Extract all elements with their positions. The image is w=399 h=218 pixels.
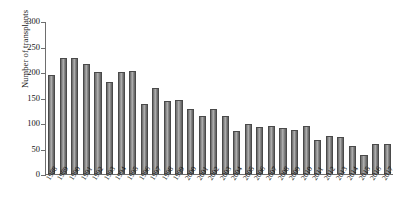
bar-slot <box>173 21 185 174</box>
x-label-slot: 2009 <box>288 176 300 218</box>
y-tick-label: 250 <box>27 42 40 52</box>
x-label-slot: 1992 <box>91 176 103 218</box>
bar-1989[interactable] <box>60 58 67 174</box>
x-label-slot: 1999 <box>173 176 185 218</box>
bar-slot <box>162 21 174 174</box>
bar-1999[interactable] <box>175 100 182 174</box>
bar-1996[interactable] <box>141 104 148 174</box>
bar-slot <box>208 21 220 174</box>
x-label-slot: 1990 <box>68 176 80 218</box>
bar-slot <box>69 21 81 174</box>
x-label-slot: 2001 <box>196 176 208 218</box>
bar-slot <box>381 21 393 174</box>
x-label-slot: 1997 <box>149 176 161 218</box>
x-label-slot: 2005 <box>242 176 254 218</box>
x-label-slot: 1995 <box>126 176 138 218</box>
x-label-slot: 1994 <box>115 176 127 218</box>
bar-series <box>46 21 393 174</box>
x-label-slot: 2002 <box>207 176 219 218</box>
bar-slot <box>300 21 312 174</box>
x-label-slot: 2017 <box>381 176 393 218</box>
transplants-bar-chart: Number of transplants 050100150200250300… <box>0 0 399 218</box>
x-label-slot: 1988 <box>45 176 57 218</box>
x-label-slot: 2003 <box>219 176 231 218</box>
y-tick-label: 200 <box>27 67 40 77</box>
bar-slot <box>289 21 301 174</box>
bar-1991[interactable] <box>83 64 90 174</box>
plot-area: 050100150200250300 <box>45 22 393 175</box>
bar-slot <box>335 21 347 174</box>
bar-slot <box>312 21 324 174</box>
bar-slot <box>92 21 104 174</box>
bar-slot <box>266 21 278 174</box>
bar-1998[interactable] <box>164 101 171 174</box>
bar-slot <box>104 21 116 174</box>
bar-slot <box>231 21 243 174</box>
y-tick-label: 300 <box>27 16 40 26</box>
y-tick-label: 100 <box>27 118 40 128</box>
x-label-slot: 2006 <box>254 176 266 218</box>
bar-slot <box>115 21 127 174</box>
x-label-slot: 2010 <box>300 176 312 218</box>
y-tick-label: 50 <box>32 144 41 154</box>
bar-slot <box>324 21 336 174</box>
bar-slot <box>46 21 58 174</box>
x-label-slot: 1989 <box>57 176 69 218</box>
bar-slot <box>81 21 93 174</box>
x-label-slot: 2012 <box>323 176 335 218</box>
bar-1994[interactable] <box>118 72 125 174</box>
x-label-slot: 2000 <box>184 176 196 218</box>
bar-slot <box>370 21 382 174</box>
x-label-slot: 2013 <box>335 176 347 218</box>
bar-slot <box>219 21 231 174</box>
bar-slot <box>58 21 70 174</box>
x-label-slot: 1991 <box>80 176 92 218</box>
bar-1993[interactable] <box>106 82 113 174</box>
bar-1990[interactable] <box>71 58 78 174</box>
bar-slot <box>150 21 162 174</box>
x-label-slot: 2014 <box>346 176 358 218</box>
bar-slot <box>347 21 359 174</box>
x-label-slot: 2011 <box>312 176 324 218</box>
bar-slot <box>185 21 197 174</box>
x-label-slot: 1993 <box>103 176 115 218</box>
x-label-slot: 2007 <box>265 176 277 218</box>
bar-1995[interactable] <box>129 71 136 174</box>
x-axis-labels: 1988198919901991199219931994199519961997… <box>45 176 393 218</box>
bar-slot <box>254 21 266 174</box>
x-label-slot: 2004 <box>231 176 243 218</box>
bar-slot <box>139 21 151 174</box>
y-tick-label: 0 <box>36 169 40 179</box>
y-tick-label: 150 <box>27 93 40 103</box>
x-label-slot: 2015 <box>358 176 370 218</box>
bar-slot <box>196 21 208 174</box>
bar-1988[interactable] <box>48 75 55 174</box>
bar-1992[interactable] <box>94 72 101 175</box>
x-label-slot: 2016 <box>370 176 382 218</box>
bar-slot <box>358 21 370 174</box>
bar-slot <box>243 21 255 174</box>
x-label-slot: 2008 <box>277 176 289 218</box>
bar-slot <box>127 21 139 174</box>
bar-1997[interactable] <box>152 88 159 174</box>
x-label-slot: 1998 <box>161 176 173 218</box>
bar-slot <box>277 21 289 174</box>
x-label-slot: 1996 <box>138 176 150 218</box>
